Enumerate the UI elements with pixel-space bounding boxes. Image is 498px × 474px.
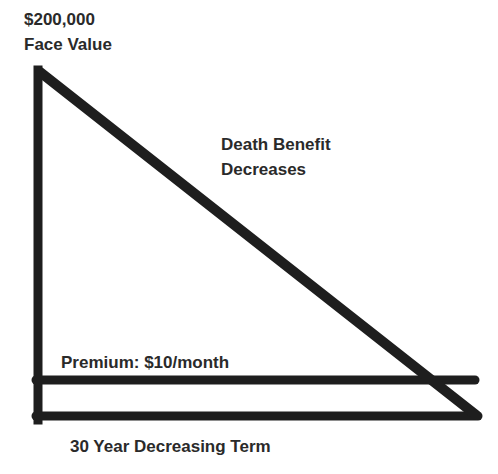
diagram-lines — [0, 0, 498, 474]
premium-label: Premium: $10/month — [61, 352, 229, 374]
term-label: 30 Year Decreasing Term — [70, 436, 271, 458]
